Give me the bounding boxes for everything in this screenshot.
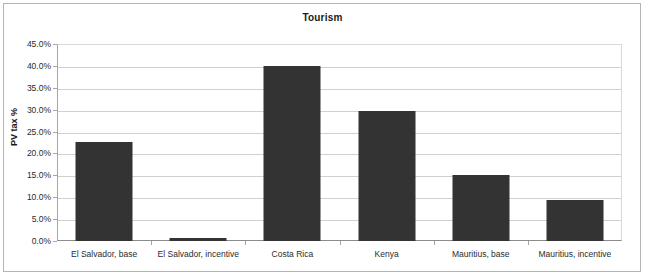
bar[interactable] (546, 200, 603, 241)
y-axis-tick-mark (53, 241, 57, 242)
x-axis-tick-label: Mauritius, incentive (528, 249, 622, 259)
bar[interactable] (452, 175, 509, 241)
bar-slot (340, 44, 434, 241)
x-axis-tick-label: El Salvador, incentive (151, 249, 245, 259)
x-axis-tick-mark (151, 241, 152, 245)
bar-slot (434, 44, 528, 241)
y-axis-tick-label: 20.0% (5, 148, 51, 158)
x-axis-tick-mark (434, 241, 435, 245)
bar[interactable] (170, 238, 227, 242)
y-axis-tick-label: 25.0% (5, 127, 51, 137)
x-axis-tick-mark (528, 241, 529, 245)
bar[interactable] (264, 66, 321, 241)
x-axis-tick-label: Mauritius, base (434, 249, 528, 259)
bar-slot (151, 44, 245, 241)
x-axis-tick-label: Costa Rica (245, 249, 339, 259)
bar-slot (528, 44, 622, 241)
x-axis-tick-label: El Salvador, base (57, 249, 151, 259)
y-axis-tick-label: 5.0% (5, 214, 51, 224)
bar[interactable] (76, 142, 133, 241)
y-axis-tick-label: 45.0% (5, 39, 51, 49)
x-axis-tick-mark (245, 241, 246, 245)
bar[interactable] (358, 111, 415, 241)
chart-title: Tourism (0, 12, 645, 23)
chart-container: Tourism PV tax % 0.0%5.0%10.0%15.0%20.0%… (0, 0, 645, 276)
y-axis-tick-label: 35.0% (5, 83, 51, 93)
y-axis-tick-label: 0.0% (5, 236, 51, 246)
y-axis-tick-label: 40.0% (5, 61, 51, 71)
y-axis-tick-label: 30.0% (5, 105, 51, 115)
x-axis-tick-mark (340, 241, 341, 245)
bars-group (57, 44, 622, 241)
x-axis-tick-label: Kenya (340, 249, 434, 259)
bar-slot (245, 44, 339, 241)
bar-slot (57, 44, 151, 241)
y-axis-tick-label: 15.0% (5, 170, 51, 180)
y-axis-tick-label: 10.0% (5, 192, 51, 202)
